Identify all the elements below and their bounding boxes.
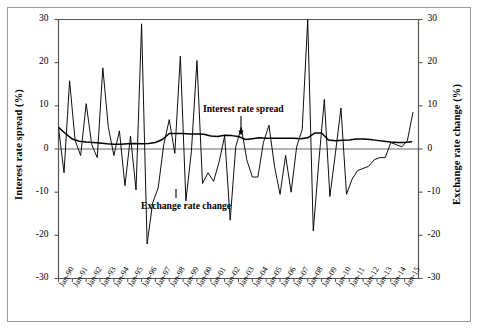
annotation-interest-rate-spread: Interest rate spread [203,103,284,114]
series-lines [59,20,413,244]
series-line-exchange-rate-change [59,20,413,244]
left-tick-label: -30 [25,272,49,282]
right-axis-title: Exchange rate change (%) [451,70,462,220]
right-tick-label: -30 [428,272,452,282]
figure-container: Interest rate spread (%) Exchange rate c… [0,0,480,331]
axis-tick-marks [55,20,423,283]
left-axis-title: Interest rate spread (%) [13,70,24,220]
right-tick-label: 0 [428,143,452,153]
left-tick-label: 10 [25,99,49,109]
right-tick-label: -20 [428,229,452,239]
left-tick-label: 20 [25,56,49,66]
right-tick-label: -10 [428,186,452,196]
left-tick-label: -20 [25,229,49,239]
left-tick-label: -10 [25,186,49,196]
left-tick-label: 30 [25,13,49,23]
annotation-markers [176,116,244,198]
annotation-exchange-rate-change: Exchange rate change [141,200,231,211]
right-tick-label: 20 [428,56,452,66]
left-tick-label: 0 [25,143,49,153]
right-tick-label: 10 [428,99,452,109]
right-tick-label: 30 [428,13,452,23]
